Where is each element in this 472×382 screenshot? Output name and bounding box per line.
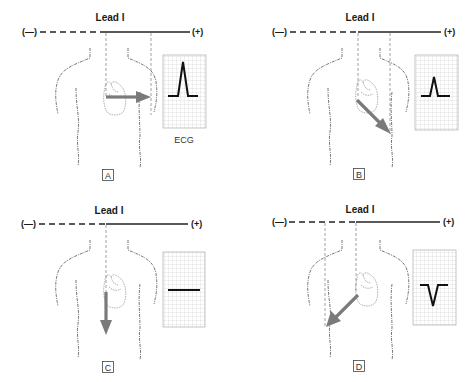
ecg-strip (415, 55, 458, 130)
lead-title: Lead I (346, 12, 375, 23)
lead-title: Lead I (95, 205, 124, 216)
panel-c: Lead I (—) (+) C (21, 205, 205, 373)
positive-pole-label: (+) (444, 27, 455, 37)
negative-pole-label: (—) (22, 27, 37, 37)
vector-arrow-icon (100, 320, 112, 335)
ecg-strip (413, 250, 456, 325)
lead-i-vector-diagram: Lead I (—) (+) ECG A Lead I (—) (+) (0, 0, 472, 382)
positive-pole-label: (+) (191, 219, 202, 229)
heart-outline (356, 273, 378, 306)
lead-title: Lead I (96, 12, 125, 23)
vector-arrow-shaft (335, 295, 358, 318)
negative-pole-label: (—) (21, 219, 36, 229)
negative-pole-label: (—) (272, 27, 287, 37)
panel-b: Lead I (—) (+) B (272, 12, 458, 180)
vector-arrow-icon (136, 91, 151, 103)
panel-d: Lead I (—) (+) D (272, 204, 456, 372)
positive-pole-label: (+) (443, 217, 454, 227)
panel-label: D (356, 362, 363, 372)
torso-outline (308, 240, 409, 360)
panel-a: Lead I (—) (+) ECG A (22, 12, 206, 181)
panel-label: A (105, 171, 111, 181)
ecg-strip (163, 252, 205, 327)
panel-label: B (356, 170, 362, 180)
panel-label: C (105, 363, 112, 373)
ecg-strip (163, 55, 206, 128)
ecg-caption: ECG (174, 135, 194, 145)
positive-pole-label: (+) (192, 27, 203, 37)
lead-title: Lead I (346, 204, 375, 215)
negative-pole-label: (—) (272, 217, 287, 227)
